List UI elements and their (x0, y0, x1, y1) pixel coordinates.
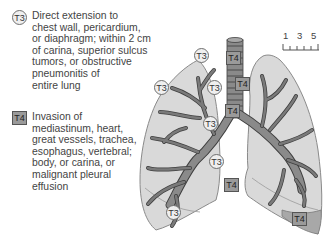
lung-diagram (0, 0, 331, 244)
t4-marker-trachea-upper: T4 (226, 51, 241, 65)
t4-marker-trachea-mid: T4 (235, 77, 250, 91)
t4-marker-carina: T4 (225, 104, 240, 118)
t3-marker-apex: T3 (194, 48, 209, 63)
t3-marker-upper-medial: T3 (207, 80, 222, 95)
t3-marker-main-bronchus: T3 (203, 116, 218, 131)
t3-marker-diaphragm: T3 (166, 205, 181, 220)
t4-marker-mediastinum: T4 (224, 178, 239, 192)
t4-marker-pleural-effusion: T4 (292, 212, 307, 226)
t3-marker-mediastinal-pleura: T3 (209, 154, 224, 169)
t3-marker-chest-wall: T3 (154, 80, 169, 95)
